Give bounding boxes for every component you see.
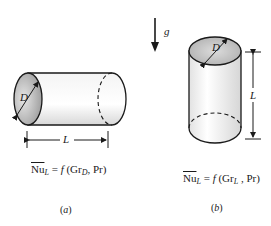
equation-a: NuL = f (GrD, Pr) <box>31 164 106 177</box>
nusselt-symbol: Nu <box>183 172 196 184</box>
gravity-label: g <box>164 26 170 37</box>
equation-b: NuL = f (GrL , Pr) <box>183 173 260 186</box>
diameter-label-a: D <box>20 92 28 103</box>
caption-b: (b) <box>211 203 223 213</box>
diagram-canvas <box>0 0 271 226</box>
length-label-a: L <box>63 134 69 145</box>
caption-a: (a) <box>60 205 72 215</box>
length-label-b: L <box>250 90 256 101</box>
horizontal-cylinder <box>14 73 126 125</box>
gravity-arrow-icon <box>151 18 159 52</box>
nusselt-symbol: Nu <box>31 163 44 175</box>
diameter-label-b: D <box>212 42 220 53</box>
